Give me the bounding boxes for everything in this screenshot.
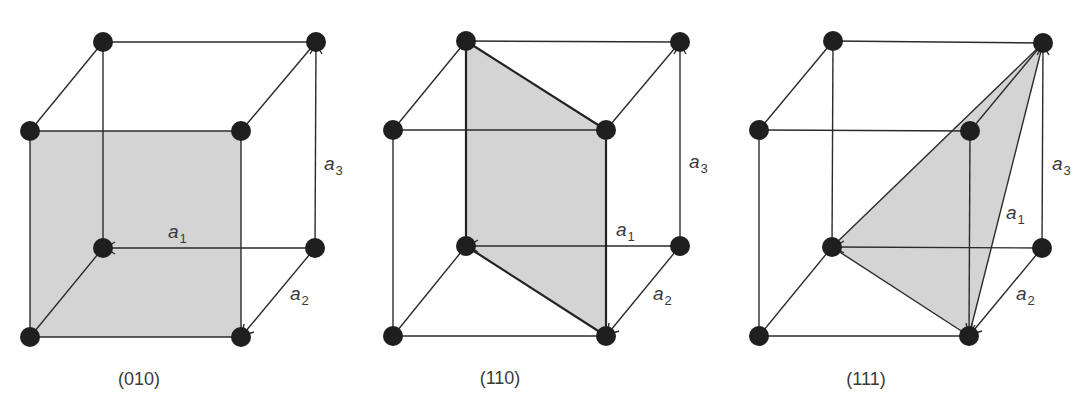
lattice-atom [1033, 33, 1053, 53]
lattice-atom [749, 120, 769, 140]
label-a2: a2 [653, 283, 672, 308]
label-a2: a2 [1016, 283, 1035, 308]
lattice-atom [93, 238, 113, 258]
lattice-atom [93, 32, 113, 52]
edge [393, 41, 466, 130]
edge [832, 41, 833, 247]
edge [969, 131, 970, 336]
edge [393, 246, 466, 336]
panel-caption: (010) [118, 369, 160, 389]
edge [241, 42, 316, 131]
lattice-atom [596, 120, 616, 140]
edge [759, 41, 833, 130]
lattice-atom [231, 327, 251, 347]
edge [759, 247, 832, 336]
vector-a1 [832, 247, 1042, 248]
lattice-atom [306, 32, 326, 52]
lattice-atom [305, 238, 325, 258]
label-a3: a3 [324, 153, 343, 178]
miller-planes-figure: a1 a2 a3 (010) [0, 0, 1090, 411]
panel-111: a1 a2 a3 (111) [749, 31, 1071, 389]
lattice-atom [749, 326, 769, 346]
label-a1: a1 [616, 219, 635, 244]
edge [30, 42, 103, 131]
lattice-atom [231, 121, 251, 141]
vector-a3 [315, 42, 316, 248]
panel-caption: (110) [480, 368, 521, 388]
lattice-atom [456, 31, 476, 51]
panel-010: a1 a2 a3 (010) [20, 32, 343, 389]
lattice-atom [670, 236, 690, 256]
edge [606, 42, 680, 130]
panel-caption: (111) [846, 369, 885, 389]
lattice-atom [1032, 238, 1052, 258]
label-a3: a3 [1052, 153, 1071, 178]
panel-110: a1 a2 a3 (110) [383, 31, 708, 388]
vector-a2 [606, 246, 680, 336]
lattice-atom [960, 121, 980, 141]
lattice-atom [20, 327, 40, 347]
lattice-atom [670, 32, 690, 52]
plane-111 [832, 43, 1043, 336]
lattice-atom [596, 326, 616, 346]
vector-a3 [1042, 43, 1043, 248]
lattice-atom [383, 120, 403, 140]
lattice-atom [822, 237, 842, 257]
label-a2: a2 [290, 283, 309, 308]
lattice-atom [20, 121, 40, 141]
label-a1: a1 [1006, 202, 1025, 227]
lattice-atom [456, 236, 476, 256]
edge [466, 41, 680, 42]
lattice-atom [383, 326, 403, 346]
lattice-atom [959, 326, 979, 346]
label-a3: a3 [689, 151, 708, 176]
plane-010 [30, 131, 241, 337]
edge [833, 41, 1043, 43]
edge [759, 130, 970, 131]
lattice-atom [823, 31, 843, 51]
